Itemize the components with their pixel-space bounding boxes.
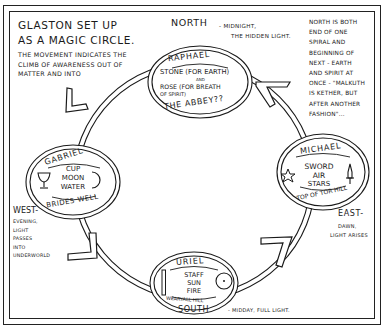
raphael-item-rose: Rose (for breath (160, 84, 221, 90)
east-desc-line: dawn, (330, 222, 368, 231)
east-label: East- (338, 210, 364, 219)
note-line: North is both (309, 17, 365, 27)
note-line: end of one (309, 27, 365, 37)
staff-icon (162, 270, 166, 295)
west-label: West- (13, 207, 38, 216)
title-line: Glaston set up (18, 18, 135, 33)
raphael-item-spirit: of spirit) (160, 92, 186, 97)
east-description: dawn, light arises (330, 222, 368, 240)
note-line: beginning of (309, 48, 365, 58)
north-label: North (171, 18, 207, 28)
uriel-item-staff: Staff (178, 272, 210, 279)
michael-item-sword: Sword (297, 163, 341, 171)
note-line: is Kether, but (309, 88, 365, 98)
note-line: after another (309, 99, 365, 109)
michael-item-air: Air (297, 172, 341, 180)
arrow-lower-right (261, 237, 292, 267)
note-line: once - "Malkuth (309, 78, 365, 88)
arrow-upper-left (66, 88, 88, 112)
title-line: as a magic circle. (18, 33, 135, 48)
note-line: next - earth (309, 58, 365, 68)
west-description: evening, light passes into underworld (13, 218, 50, 261)
uriel-item-sun: Sun (178, 280, 210, 287)
raphael-item-stone: Stone (for earth) (160, 69, 229, 76)
north-desc-line: - midnight, (219, 21, 291, 31)
west-desc-line: into (13, 244, 50, 253)
subtitle-line: matter and into (18, 69, 127, 79)
note-line: and spirit at (309, 68, 365, 78)
west-desc-line: light (13, 227, 50, 236)
diagram-title: Glaston set up as a magic circle. (18, 18, 135, 48)
north-description: - midnight, the hidden light. (219, 21, 291, 41)
gabriel-item-water: Water (54, 184, 92, 191)
uriel-item-fire: Fire (178, 288, 210, 295)
east-desc-line: light arises (330, 231, 368, 240)
west-desc-line: evening, (13, 218, 50, 227)
subtitle-line: The movement indicates the (18, 50, 127, 60)
arrow-lower-left (68, 233, 97, 260)
gabriel-item-moon: Moon (56, 175, 90, 182)
note-line: spiral and (309, 37, 365, 47)
west-desc-line: underworld (13, 252, 50, 261)
subtitle-line: climb of awareness out of (18, 60, 127, 70)
west-desc-line: passes (13, 235, 50, 244)
diagram-subtitle: The movement indicates the climb of awar… (18, 50, 127, 79)
gabriel-item-cup: Cup (58, 166, 88, 173)
south-label: South (178, 306, 209, 315)
raphael-item-and: and (196, 78, 205, 82)
north-note: North is both end of one spiral and begi… (309, 17, 365, 119)
south-description: - midday, full light. (228, 308, 290, 314)
note-line: fashion"... (309, 109, 365, 119)
north-desc-line: the hidden light. (219, 31, 291, 41)
